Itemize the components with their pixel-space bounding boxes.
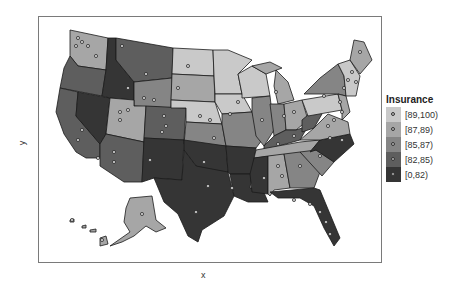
legend-label: [89,100) [405,110,438,120]
point-marker-icon [391,172,395,176]
legend-item: [87,89) [386,122,438,137]
legend-swatch [386,122,401,137]
state-north-dakota[interactable] [172,48,214,76]
state-colorado[interactable] [144,106,186,140]
legend-item: [82,85) [386,152,438,167]
legend: Insurance [89,100) [87,89) [85,87) [82,8… [386,94,438,182]
legend-swatch [386,152,401,167]
point-marker-icon [391,157,395,161]
state-alaska[interactable] [110,196,166,246]
legend-item: [89,100) [386,107,438,122]
legend-swatch [386,167,401,182]
legend-item: [85,87) [386,137,438,152]
us-choropleth-map [38,16,382,263]
point-marker-icon [391,127,395,131]
state-arizona[interactable] [100,134,144,182]
legend-label: [82,85) [405,155,433,165]
legend-item: [0,82) [386,167,438,182]
legend-label: [85,87) [405,140,433,150]
x-axis-label: x [201,270,206,280]
legend-swatch [386,137,401,152]
state-mississippi[interactable] [250,156,268,194]
point-marker-icon [391,142,395,146]
y-axis-label: y [17,141,27,146]
state-pennsylvania[interactable] [302,94,342,116]
legend-title: Insurance [386,94,438,105]
legend-swatch [386,107,401,122]
legend-label: [0,82) [405,170,428,180]
state-hawaii[interactable] [70,219,108,246]
legend-label: [87,89) [405,125,433,135]
state-wyoming[interactable] [134,78,172,108]
point-marker-icon [391,112,395,116]
state-florida[interactable] [270,188,340,246]
state-new-york[interactable] [304,64,346,96]
